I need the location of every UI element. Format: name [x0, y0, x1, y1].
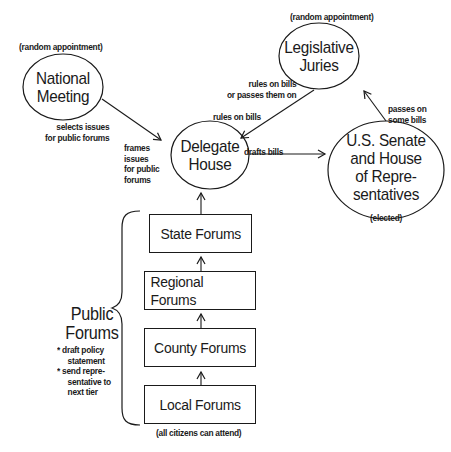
national-meeting-line1: National — [27, 70, 99, 88]
delegate-house-line1: Delegate — [175, 138, 245, 156]
arrow-congress-to-juries — [364, 91, 386, 121]
delegate-house-line2: House — [175, 156, 245, 174]
public-forums-title: Public Forums — [65, 305, 119, 343]
box-state-forums: State Forums — [149, 214, 252, 253]
label-passes-on: passes on some bills — [388, 104, 427, 125]
arrow-national-to-delegate — [102, 99, 161, 140]
label-drafts-bills: drafts bills — [244, 147, 283, 157]
legislative-juries-line2: Juries — [279, 57, 360, 75]
congress-line4: sentatives — [337, 186, 436, 204]
node-legislative-juries: Legislative Juries — [279, 39, 360, 75]
national-meeting-note: (random appointment) — [19, 42, 102, 52]
box-county-forums: County Forums — [144, 328, 256, 367]
local-forums-note: (all citizens can attend) — [156, 428, 241, 438]
box-regional-forums: Regional Forums — [144, 271, 256, 310]
public-forums-bullets: * draft policy statement * send repre- s… — [57, 345, 111, 398]
legislative-juries-note: (random appointment) — [290, 12, 373, 22]
legislative-juries-line1: Legislative — [279, 39, 360, 57]
congress-line3: of Repre- — [337, 168, 436, 186]
congress-note: (elected) — [370, 213, 402, 223]
node-national-meeting: National Meeting — [27, 70, 99, 106]
node-congress: U.S. Senate and House of Repre- sentativ… — [337, 132, 436, 204]
label-rules-on-bills: rules on bills — [213, 112, 261, 122]
label-juries-rules: rules on bills or passes them on — [227, 79, 296, 100]
box-local-forums: Local Forums — [144, 385, 256, 424]
congress-line1: U.S. Senate — [337, 132, 436, 150]
node-delegate-house: Delegate House — [175, 138, 245, 174]
national-meeting-line2: Meeting — [27, 88, 99, 106]
label-selects-issues: selects issues for public forums — [44, 122, 109, 143]
label-frames-issues: frames issues for public forums — [124, 143, 159, 185]
congress-line2: and House — [337, 150, 436, 168]
